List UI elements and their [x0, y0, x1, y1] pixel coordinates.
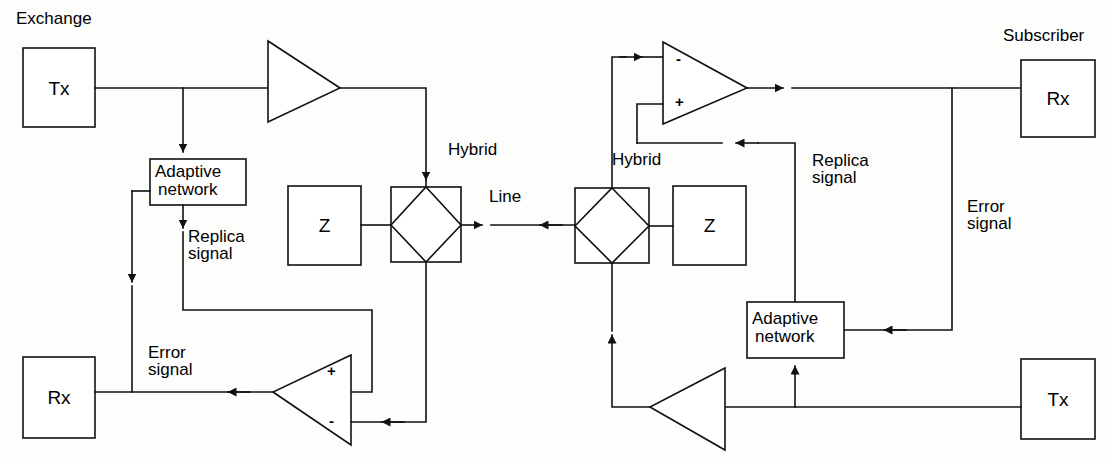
label-subscriber: Subscriber: [1003, 27, 1084, 44]
label-replica-left-line1: Replica: [188, 228, 245, 245]
block-label-z-right: Z: [673, 215, 746, 237]
diagram-svg: [0, 0, 1111, 461]
label-hybrid-right: Hybrid: [612, 151, 661, 168]
subtractor-right-minus-sign: -: [676, 50, 681, 67]
label-line: Line: [489, 188, 521, 205]
subtractor-left-plus-sign: +: [327, 362, 336, 379]
block-label-tx-right: Tx: [1021, 389, 1095, 411]
label-error-right-line1: Error: [967, 198, 1005, 215]
label-hybrid-left: Hybrid: [448, 141, 497, 158]
wire-subright-plus-stub: [637, 104, 663, 143]
block-label-adaptive-right-line1: Adaptive: [752, 310, 818, 327]
wire-ampleft-to-hybridleft: [340, 88, 426, 180]
wire-errorright-bus: [890, 88, 952, 330]
block-label-tx-left: Tx: [23, 78, 95, 100]
subtractor-right-plus-sign: +: [675, 93, 684, 110]
label-replica-right-line1: Replica: [812, 152, 869, 169]
wire-hybridleft-bottom: [351, 262, 426, 422]
block-label-rx-right: Rx: [1021, 88, 1095, 110]
block-label-adaptive-left-line2: network: [158, 181, 218, 198]
block-label-adaptive-left-line1: Adaptive: [155, 163, 221, 180]
wire-ampright-out: [612, 335, 650, 407]
diagram-canvas: Exchange Subscriber Tx Rx Z Z Rx Tx Adap…: [0, 0, 1111, 461]
block-label-rx-left: Rx: [23, 387, 95, 409]
block-label-z-left: Z: [288, 215, 361, 237]
block-label-adaptive-right-line2: network: [755, 328, 815, 345]
wire-replica-right-down: [758, 143, 795, 302]
amp-right-bottom: [650, 368, 725, 450]
subtractor-left: [273, 355, 351, 445]
label-replica-left-line2: signal: [188, 245, 232, 262]
amp-left-top: [268, 41, 340, 122]
label-replica-right-line2: signal: [812, 169, 856, 186]
subtractor-left-minus-sign: -: [329, 412, 334, 429]
label-exchange: Exchange: [16, 10, 92, 27]
label-error-right-line2: signal: [967, 215, 1011, 232]
label-error-left-line1: Error: [148, 344, 186, 361]
label-error-left-line2: signal: [148, 361, 192, 378]
